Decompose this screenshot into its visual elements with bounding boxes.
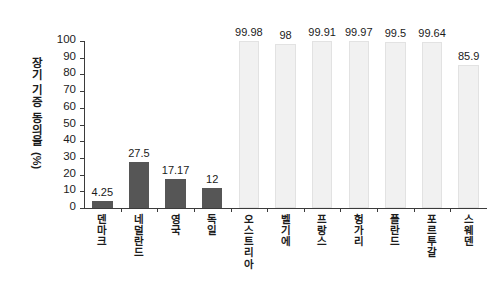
x-category-label: 덴마크 bbox=[94, 214, 110, 247]
x-tick-mark bbox=[340, 208, 341, 212]
x-category-label-char: 리 bbox=[354, 236, 364, 247]
x-category-label: 프랑스 bbox=[314, 214, 330, 247]
y-tick-mark bbox=[80, 58, 84, 59]
x-category-label: 포르투갈 bbox=[424, 214, 440, 259]
bar-value-label: 99.97 bbox=[345, 26, 373, 38]
y-axis-title: 장 기 기 증 동 의 율 (%) bbox=[20, 58, 54, 208]
plot-area: 0102030405060708090100 4.2527.517.171299… bbox=[84, 41, 487, 208]
bar-value-label: 98 bbox=[279, 29, 291, 41]
y-tick-mark bbox=[80, 91, 84, 92]
y-tick-label: 60 bbox=[50, 100, 76, 112]
y-axis-title-char: 동 bbox=[32, 113, 43, 125]
x-tick-mark bbox=[377, 208, 378, 212]
x-category-label: 폴란드 bbox=[387, 214, 403, 247]
x-axis-line bbox=[84, 208, 487, 209]
bar-value-label: 17.17 bbox=[162, 164, 190, 176]
bar[interactable] bbox=[165, 179, 186, 208]
x-category-label-char: 에 bbox=[281, 236, 291, 247]
bar-value-label: 99.5 bbox=[385, 27, 406, 39]
y-tick-mark bbox=[80, 158, 84, 159]
bar-chart-figure: 장 기 기 증 동 의 율 (%) 0102030405060708090100… bbox=[0, 0, 497, 290]
bar-value-label: 99.64 bbox=[418, 27, 446, 39]
y-tick-label: 100 bbox=[50, 33, 76, 45]
x-category-label-char: 아 bbox=[244, 259, 254, 270]
bar[interactable] bbox=[92, 201, 113, 208]
bar[interactable] bbox=[422, 42, 443, 208]
y-tick-label: 10 bbox=[50, 183, 76, 195]
x-category-label: 헝가리 bbox=[351, 214, 367, 247]
x-category-label: 벨기에 bbox=[278, 214, 294, 247]
x-tick-mark bbox=[121, 208, 122, 212]
bar-value-label: 99.98 bbox=[235, 26, 263, 38]
y-tick-label: 90 bbox=[50, 50, 76, 62]
y-tick-label: 20 bbox=[50, 167, 76, 179]
bar[interactable] bbox=[275, 44, 296, 208]
x-tick-mark bbox=[231, 208, 232, 212]
x-category-label-char: 드 bbox=[134, 247, 144, 258]
bar[interactable] bbox=[312, 41, 333, 208]
y-tick-label: 30 bbox=[50, 150, 76, 162]
x-category-label: 네덜란드 bbox=[131, 214, 147, 259]
x-category-label-char: 리 bbox=[244, 247, 254, 258]
bar[interactable] bbox=[385, 42, 406, 208]
y-axis-title-char: 기 bbox=[32, 70, 43, 82]
x-tick-mark bbox=[304, 208, 305, 212]
x-category-label-char: 일 bbox=[207, 225, 217, 236]
y-tick-label: 50 bbox=[50, 117, 76, 129]
x-category-label-char: 국 bbox=[171, 225, 181, 236]
bar-value-label: 12 bbox=[206, 173, 218, 185]
bar[interactable] bbox=[458, 65, 479, 208]
x-category-label-char: 갈 bbox=[427, 247, 437, 258]
y-axis-unit: (%) bbox=[31, 152, 42, 169]
x-category-label-char: 스 bbox=[317, 236, 327, 247]
x-category-label: 독일 bbox=[204, 214, 220, 236]
bar[interactable] bbox=[129, 162, 150, 208]
x-category-label: 오스트리아 bbox=[241, 214, 257, 270]
y-axis-title-char: 증 bbox=[32, 97, 43, 109]
x-category-label: 영국 bbox=[168, 214, 184, 236]
bar-value-label: 99.91 bbox=[308, 26, 336, 38]
y-axis-title-char: 율 bbox=[32, 136, 43, 148]
y-tick-label: 70 bbox=[50, 83, 76, 95]
bar[interactable] bbox=[349, 41, 370, 208]
y-tick-label: 0 bbox=[50, 200, 76, 212]
bar-value-label: 27.5 bbox=[128, 147, 149, 159]
y-axis-title-char: 장 bbox=[32, 58, 43, 70]
x-tick-mark bbox=[450, 208, 451, 212]
y-tick-mark bbox=[80, 208, 84, 209]
x-tick-mark bbox=[194, 208, 195, 212]
x-tick-mark bbox=[267, 208, 268, 212]
x-tick-mark bbox=[157, 208, 158, 212]
y-tick-label: 40 bbox=[50, 133, 76, 145]
bar[interactable] bbox=[239, 41, 260, 208]
x-category-label-char: 크 bbox=[97, 236, 107, 247]
bar[interactable] bbox=[202, 188, 223, 208]
y-tick-label: 80 bbox=[50, 66, 76, 78]
y-tick-mark bbox=[80, 74, 84, 75]
x-category-label-char: 덴 bbox=[464, 236, 474, 247]
x-tick-mark bbox=[414, 208, 415, 212]
x-category-label-char: 드 bbox=[390, 236, 400, 247]
bar-value-label: 85.9 bbox=[458, 50, 479, 62]
y-axis-line bbox=[84, 41, 85, 208]
y-tick-mark bbox=[80, 125, 84, 126]
y-tick-mark bbox=[80, 41, 84, 42]
y-tick-mark bbox=[80, 191, 84, 192]
bar-value-label: 4.25 bbox=[92, 186, 113, 198]
y-tick-mark bbox=[80, 175, 84, 176]
y-tick-mark bbox=[80, 141, 84, 142]
y-tick-mark bbox=[80, 108, 84, 109]
x-category-label: 스웨덴 bbox=[461, 214, 477, 247]
